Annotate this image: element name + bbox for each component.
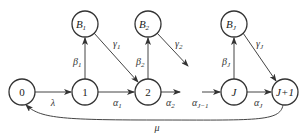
edge-label-gamma2: γ2 bbox=[175, 38, 183, 51]
node-label-2: 2 bbox=[145, 86, 151, 98]
node-label-J1: J+1 bbox=[276, 86, 294, 98]
edge-label-alphaJm1: αJ−1 bbox=[192, 97, 209, 110]
edge-label-gammaJ: γJ bbox=[256, 38, 264, 51]
edge-label-alpha1: α1 bbox=[113, 97, 122, 110]
node-label-0: 0 bbox=[19, 86, 25, 98]
edge-label-lambda: λ bbox=[50, 97, 56, 108]
node-label-1: 1 bbox=[82, 86, 88, 98]
edge-label-mu: μ bbox=[153, 122, 159, 133]
edge-label-alphaJ: αJ bbox=[254, 97, 263, 110]
edge-label-betaJ: βJ bbox=[221, 56, 231, 69]
state-diagram: 0 1 2 J J+1 B1 B2 BJ λ α1 α2 αJ−1 αJ β1 … bbox=[0, 0, 308, 137]
edge-B2-out bbox=[157, 33, 188, 66]
edge-J1-0 bbox=[26, 105, 283, 120]
edge-label-gamma1: γ1 bbox=[113, 38, 120, 51]
edge-label-beta2: β2 bbox=[135, 56, 145, 69]
edge-label-beta1: β1 bbox=[72, 56, 81, 69]
edge-label-alpha2: α2 bbox=[166, 97, 175, 110]
